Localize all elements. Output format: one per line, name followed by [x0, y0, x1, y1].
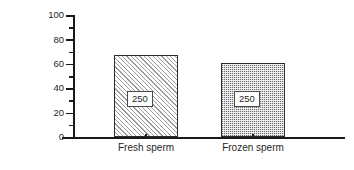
- y-axis-line: [73, 15, 75, 138]
- y-tick-label-40: 40: [24, 83, 64, 93]
- y-tick-60: [66, 64, 73, 66]
- bar-frozen-sperm: 250: [221, 63, 285, 137]
- y-minor-tick-50: [69, 76, 73, 78]
- x-axis-line: [62, 137, 345, 139]
- bar-fresh-sperm: 250: [114, 55, 178, 137]
- x-axis-category-frozen-sperm: Frozen sperm: [198, 142, 308, 154]
- y-tick-label-100: 100: [24, 10, 64, 20]
- x-tick-fresh-sperm: [145, 134, 147, 139]
- y-tick-100: [66, 15, 73, 17]
- y-tick-20: [66, 113, 73, 115]
- y-tick-0: [66, 137, 73, 139]
- y-minor-tick-10: [69, 125, 73, 127]
- y-tick-label-0: 0: [24, 132, 64, 142]
- x-tick-frozen-sperm: [252, 134, 254, 139]
- y-tick-80: [66, 39, 73, 41]
- y-minor-tick-90: [69, 27, 73, 29]
- y-tick-label-60: 60: [24, 59, 64, 69]
- bar-chart-figure: Ewes Pregnant (%) 100 80 60 40 20 0 250 …: [0, 0, 354, 170]
- y-tick-label-20: 20: [24, 108, 64, 118]
- y-minor-tick-70: [69, 52, 73, 54]
- x-axis-category-fresh-sperm: Fresh sperm: [91, 142, 201, 154]
- y-minor-tick-30: [69, 100, 73, 102]
- bar-value-label-frozen: 250: [234, 91, 260, 107]
- bar-value-label-fresh: 250: [127, 91, 153, 107]
- y-tick-40: [66, 88, 73, 90]
- y-tick-label-80: 80: [24, 35, 64, 45]
